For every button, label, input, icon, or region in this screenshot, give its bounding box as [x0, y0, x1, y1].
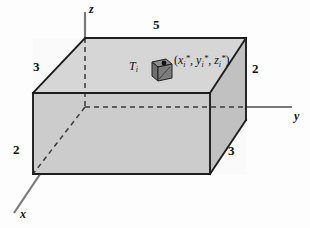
dimension-top-width: 5 [153, 18, 160, 31]
box-diagram-figure: z y x 5 3 2 2 3 Ti (xi*, yi*, zi*) [0, 0, 310, 228]
x-axis-label: x [20, 208, 26, 220]
z-axis-label: z [89, 3, 94, 15]
subbox-label-base: T [129, 59, 136, 73]
subbox-label-sub: i [136, 65, 138, 74]
sample-point-label: (xi*, yi*, zi*) [174, 54, 230, 69]
dimension-front-right-depth: 3 [228, 144, 235, 157]
subbox-Ti [152, 59, 172, 81]
y-axis-label: y [294, 110, 299, 122]
sample-point-dot [162, 61, 167, 66]
sample-point-close-paren: ) [226, 53, 230, 67]
diagram-canvas [0, 0, 310, 228]
dimension-front-left-height: 2 [13, 143, 20, 156]
subbox-label: Ti [129, 60, 138, 74]
dimension-top-left-depth: 3 [33, 60, 40, 73]
dimension-top-right-height: 2 [252, 62, 259, 75]
